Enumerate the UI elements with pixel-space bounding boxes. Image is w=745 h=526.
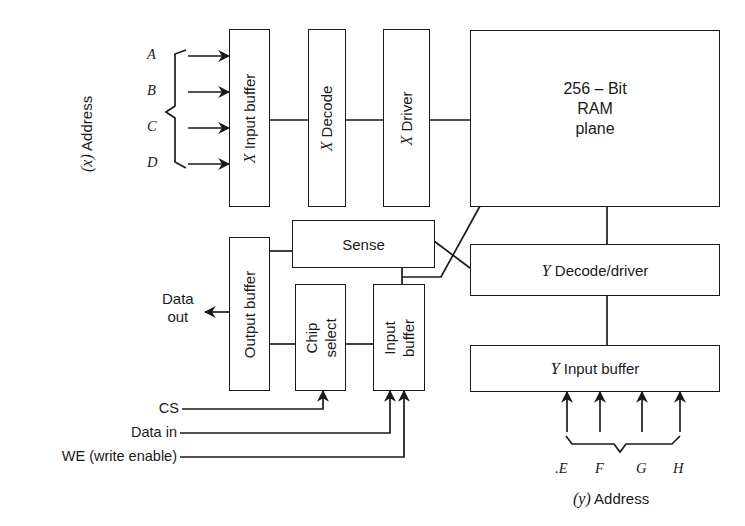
ram-plane-line1: 256 – Bit <box>563 79 626 99</box>
y-input-e: .E <box>555 460 567 477</box>
ram-plane-line3: plane <box>575 119 614 139</box>
y-input-f: F <box>595 460 604 477</box>
y-address-brace <box>566 436 680 452</box>
x-driver-block: X Driver <box>383 29 430 207</box>
ram-plane-block: 256 – Bit RAM plane <box>470 30 720 207</box>
chip-select-line2: select <box>321 318 340 357</box>
x-address-label: (x) Address <box>78 96 96 172</box>
y-input-buffer-prefix: Y <box>551 360 560 377</box>
x-input-d: D <box>147 154 157 171</box>
data-out-line2: out <box>167 308 188 326</box>
y-decode-label: Decode/driver <box>555 262 648 279</box>
x-driver-label: Driver <box>398 91 415 131</box>
x-decode-block: X Decode <box>308 29 346 207</box>
data-in-label: Data in <box>131 424 177 440</box>
x-address-brace <box>166 50 186 168</box>
x-input-b: B <box>147 82 156 99</box>
input-buffer-block: Input buffer <box>373 284 425 391</box>
data-out-line1: Data <box>162 290 194 308</box>
x-decode-label: Decode <box>319 85 336 137</box>
y-decode-driver-block: Y Decode/driver <box>470 244 720 296</box>
input-buffer-line2: buffer <box>399 318 418 356</box>
x-input-a: A <box>147 46 156 63</box>
x-input-buffer-block: X Input buffer <box>229 29 270 207</box>
x-address-prefix: (x) <box>78 154 95 172</box>
data-out-label: Data out <box>162 290 194 326</box>
sense-block: Sense <box>292 220 435 268</box>
x-input-c: C <box>147 118 157 135</box>
y-input-buffer-block: Y Input buffer <box>470 345 720 392</box>
x-driver-prefix: X <box>398 135 415 145</box>
y-decode-prefix: Y <box>542 262 551 279</box>
cs-label: CS <box>159 400 179 416</box>
input-buffer-line1: Input <box>380 321 399 354</box>
y-input-h: H <box>673 460 683 477</box>
y-address-text: Address <box>594 490 649 507</box>
y-address-label: (y) Address <box>573 490 649 508</box>
x-decode-prefix: X <box>319 141 336 151</box>
output-buffer-label: Output buffer <box>240 270 259 357</box>
y-input-g: G <box>636 460 646 477</box>
we-label: WE (write enable) <box>62 448 177 464</box>
x-input-buffer-prefix: X <box>241 153 258 163</box>
sense-label: Sense <box>342 235 385 254</box>
output-buffer-block: Output buffer <box>229 237 270 391</box>
y-input-buffer-label: Input buffer <box>564 360 640 377</box>
chip-select-block: Chip select <box>295 284 346 391</box>
chip-select-line1: Chip <box>302 322 321 353</box>
y-address-prefix: (y) <box>573 490 591 507</box>
x-address-text: Address <box>78 96 95 151</box>
x-input-buffer-label: Input buffer <box>241 73 258 149</box>
ram-plane-line2: RAM <box>577 99 613 119</box>
